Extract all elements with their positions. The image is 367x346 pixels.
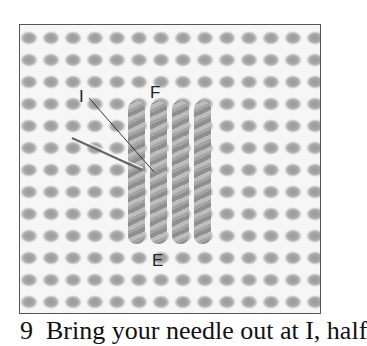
figure-caption: 9 Bring your needle out at I, half bbox=[20, 316, 367, 346]
needle-and-leader bbox=[20, 25, 320, 313]
label-e: E bbox=[152, 251, 163, 271]
needlepoint-photo: I F E bbox=[19, 24, 321, 314]
label-f: F bbox=[150, 83, 160, 103]
label-i: I bbox=[79, 87, 84, 107]
